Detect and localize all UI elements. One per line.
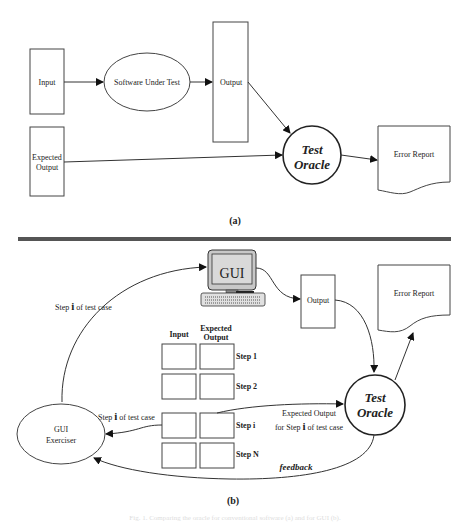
step-row-n: Step N (162, 443, 259, 468)
panel-b-label: (b) (227, 495, 239, 507)
error-report-document-b (378, 265, 450, 332)
step-to-exerciser-label: Step i of test case (98, 410, 155, 422)
oracle-label-b-1: Test (364, 390, 386, 405)
sut-label: Software Under Test (114, 78, 181, 87)
feedback-label: feedback (280, 462, 313, 472)
step-label-i: Step i (236, 421, 256, 430)
arrow-oracle-to-error-report-b (395, 333, 413, 380)
gui-exerciser-ellipse (17, 404, 105, 464)
step-row-2: Step 2 (162, 374, 257, 399)
error-report-label-b: Error Report (394, 289, 435, 298)
step-label-2: Step 2 (236, 382, 257, 391)
oracle-label-a-2: Oracle (294, 157, 330, 172)
exerciser-label-1: GUI (54, 425, 69, 434)
step-to-gui-label: Step i of test case (55, 300, 112, 312)
arrow-oracle-to-error-report (341, 155, 377, 160)
output-label: Output (220, 78, 243, 87)
expected-output-label-1: Expected (32, 153, 62, 162)
panel-b: GUI Output Error Report Step i of test c… (17, 250, 450, 507)
oracle-label-a-1: Test (301, 142, 323, 157)
table-header-expected-1: Expected (200, 324, 232, 333)
arrow-expected-to-oracle (64, 155, 282, 162)
step-row-1: Step 1 (162, 344, 257, 369)
expected-for-step-label-1: Expected Output (282, 409, 337, 418)
step-label-1: Step 1 (236, 352, 257, 361)
gui-screen-label: GUI (220, 266, 245, 281)
table-header-expected-2: Output (204, 333, 229, 342)
computer-gui-icon: GUI (201, 250, 265, 306)
expected-for-step-label-2: for Step i of test case (275, 420, 344, 432)
arrow-output-to-oracle (248, 82, 290, 133)
output-label-b: Output (307, 296, 330, 305)
arrow-step-to-exerciser (106, 425, 162, 434)
figure-caption: Fig. 1. Comparing the oracle for convent… (129, 514, 341, 522)
oracle-label-b-2: Oracle (357, 405, 393, 420)
step-row-i: Step i (162, 413, 256, 438)
expected-output-label-2: Output (36, 163, 59, 172)
panel-a-label: (a) (229, 215, 241, 227)
error-report-document-a (378, 126, 450, 194)
input-label: Input (39, 78, 57, 87)
exerciser-label-2: Exerciser (46, 436, 77, 445)
arrow-output-to-oracle-b (335, 300, 374, 372)
table-header-input: Input (169, 330, 188, 339)
panel-a: Input Software Under Test Output Expecte… (30, 22, 450, 227)
step-label-n: Step N (236, 450, 259, 459)
oracle-comparison-diagram: Input Software Under Test Output Expecte… (0, 0, 471, 524)
error-report-label-a: Error Report (394, 150, 435, 159)
panel-separator (18, 237, 451, 241)
